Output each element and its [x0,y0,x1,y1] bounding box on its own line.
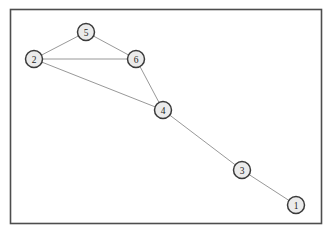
graph-canvas: 123456 [0,0,331,238]
graph-figure: 123456 [0,0,331,238]
graph-node-label: 4 [161,106,166,116]
graph-node-label: 1 [294,201,299,211]
graph-node-4[interactable]: 4 [155,102,172,119]
graph-node-label: 2 [32,55,37,65]
graph-node-2[interactable]: 2 [26,51,43,68]
graph-node-label: 5 [84,28,89,38]
graph-node-5[interactable]: 5 [78,24,95,41]
graph-node-6[interactable]: 6 [128,51,145,68]
graph-node-label: 3 [240,166,245,176]
graph-node-3[interactable]: 3 [234,162,251,179]
graph-node-1[interactable]: 1 [288,197,305,214]
graph-node-label: 6 [134,55,139,65]
